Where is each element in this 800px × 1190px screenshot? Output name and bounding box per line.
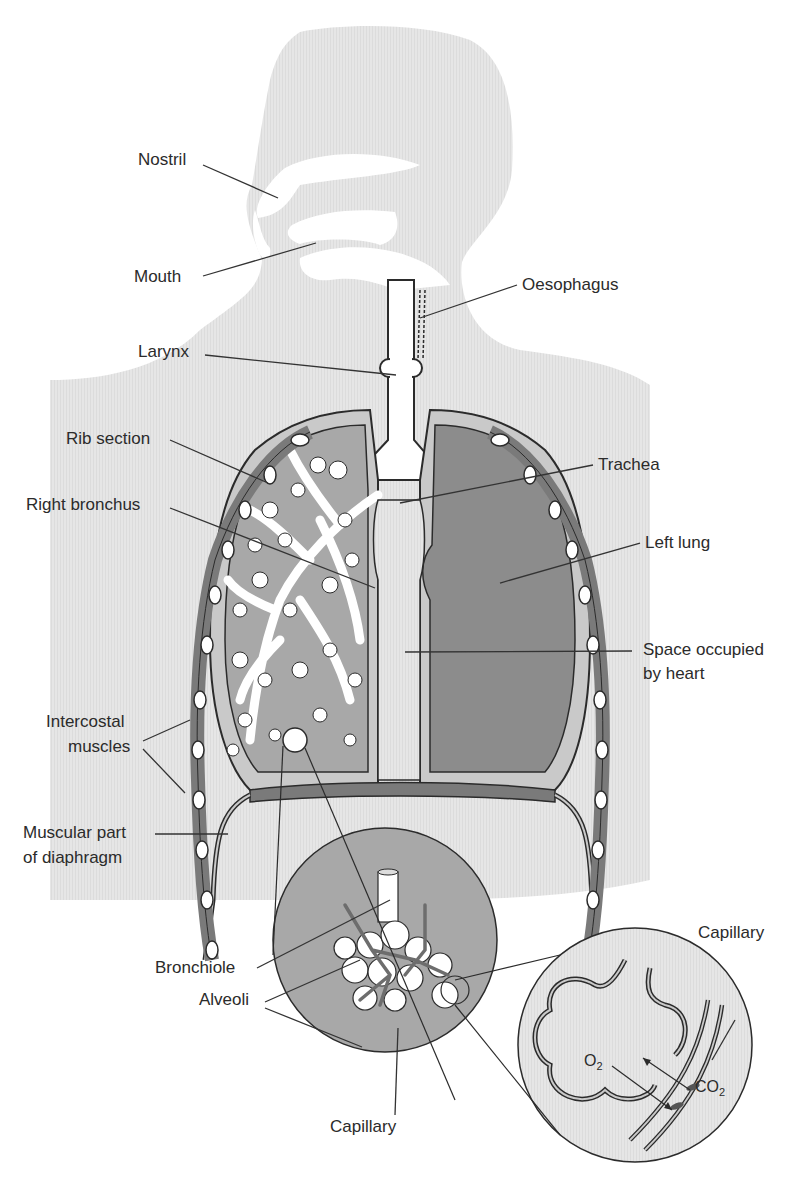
- label-rib-section: Rib section: [66, 429, 150, 449]
- label-capillary-inset: Capillary: [698, 923, 764, 943]
- label-space-heart-line2: by heart: [643, 664, 704, 684]
- label-left-lung: Left lung: [645, 533, 710, 553]
- label-right-bronchus: Right bronchus: [26, 495, 140, 515]
- label-diaphragm-line1: Muscular part: [23, 823, 126, 843]
- label-trachea: Trachea: [598, 455, 660, 475]
- label-intercostal-line2: muscles: [68, 737, 130, 757]
- label-carbon-dioxide: CO2: [695, 1078, 725, 1098]
- label-larynx: Larynx: [138, 342, 189, 362]
- alveoli-inset: [273, 828, 497, 1052]
- label-nostril: Nostril: [138, 150, 186, 170]
- label-diaphragm-line2: of diaphragm: [23, 848, 122, 868]
- label-oesophagus: Oesophagus: [522, 275, 618, 295]
- label-alveoli: Alveoli: [199, 990, 249, 1010]
- label-capillary-bottom: Capillary: [330, 1117, 396, 1137]
- label-bronchiole: Bronchiole: [155, 958, 235, 978]
- label-space-heart-line1: Space occupied: [643, 640, 764, 660]
- respiratory-system-diagram: [0, 0, 800, 1190]
- label-mouth: Mouth: [134, 267, 181, 287]
- label-intercostal-line1: Intercostal: [46, 712, 124, 732]
- label-oxygen: O2: [584, 1052, 603, 1072]
- heart-space: [374, 500, 425, 780]
